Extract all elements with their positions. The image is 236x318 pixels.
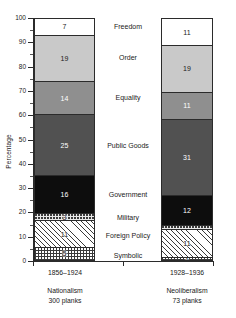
- bar-segment-freedom: 7: [35, 19, 94, 36]
- x-axis-tick: [123, 261, 124, 266]
- segment-value-label: 11: [183, 102, 190, 109]
- y-axis-minor-tick: [30, 176, 33, 177]
- y-axis-minor-tick: [30, 249, 33, 250]
- y-axis-tick: 30: [28, 188, 33, 189]
- stacked-bar-chart: Percentage 1009080706050403020100 719142…: [0, 0, 236, 318]
- bar-segment-equality: 14: [35, 82, 94, 116]
- y-axis-tick-label: 20: [19, 208, 26, 215]
- category-label-symbolic: Symbolic: [97, 252, 159, 259]
- bar-segment-symbolic: 1: [162, 258, 212, 260]
- y-axis-tick: 20: [28, 212, 33, 213]
- category-label-military: Military: [97, 214, 159, 221]
- bar-segment-freedom: 11: [162, 19, 212, 46]
- y-axis-tick-label: 60: [19, 111, 26, 118]
- y-axis-minor-tick: [30, 200, 33, 201]
- bar-segment-foreign-policy: 11: [35, 221, 94, 248]
- category-label-public-goods: Public Goods: [97, 142, 159, 149]
- y-axis-tick: 80: [28, 67, 33, 68]
- y-axis-title: Percentage: [5, 120, 12, 184]
- bar-segment-equality: 11: [162, 93, 212, 120]
- bar-neoliberalism: 1119113112111: [161, 18, 213, 261]
- caption-period: 1856–1924: [24, 268, 106, 278]
- bar-segment-order: 19: [162, 46, 212, 93]
- segment-value-label: 14: [61, 95, 69, 102]
- category-label-equality: Equality: [97, 94, 159, 101]
- y-axis-tick-label: 0: [22, 257, 26, 264]
- category-label-government: Government: [97, 191, 159, 198]
- y-axis-tick: 90: [28, 42, 33, 43]
- y-axis-minor-tick: [30, 225, 33, 226]
- category-label-foreign-policy: Foreign Policy: [97, 232, 159, 239]
- caption-name: Nationalism: [24, 286, 106, 296]
- caption-name: Neoliberalism: [152, 286, 222, 296]
- bar-segment-public-goods: 25: [35, 115, 94, 175]
- y-axis-minor-tick: [30, 127, 33, 128]
- y-axis-minor-tick: [30, 103, 33, 104]
- bar-segment-symbolic: 5: [35, 248, 94, 260]
- y-axis-tick-label: 90: [19, 38, 26, 45]
- caption-nationalism: 1856–1924 Nationalism 300 planks: [24, 268, 106, 306]
- y-axis-tick: 40: [28, 164, 33, 165]
- caption-neoliberalism: 1928–1936 Neoliberalism 73 planks: [152, 268, 222, 306]
- y-axis-minor-tick: [30, 79, 33, 80]
- y-axis-minor-tick: [30, 54, 33, 55]
- y-axis-tick: 50: [28, 140, 33, 141]
- bar-segment-public-goods: 31: [162, 120, 212, 196]
- category-label-freedom: Freedom: [97, 23, 159, 30]
- segment-value-label: 1: [185, 258, 189, 260]
- bar-segment-military: 3: [35, 214, 94, 221]
- caption-count: 73 planks: [152, 296, 222, 306]
- segment-value-label: 31: [183, 154, 191, 161]
- segment-value-label: 25: [61, 142, 69, 149]
- y-axis-tick-label: 100: [15, 14, 26, 21]
- y-axis-minor-tick: [30, 152, 33, 153]
- caption-period: 1928–1936: [152, 268, 222, 278]
- y-axis-minor-tick: [30, 30, 33, 31]
- segment-value-label: 7: [63, 23, 67, 30]
- y-axis-tick-label: 70: [19, 87, 26, 94]
- segment-value-label: 19: [183, 65, 191, 72]
- y-axis-tick-label: 30: [19, 184, 26, 191]
- y-axis-tick: 10: [28, 237, 33, 238]
- bar-segment-government: 16: [35, 176, 94, 215]
- y-axis-tick: 100: [28, 18, 33, 19]
- segment-value-label: 3: [63, 214, 67, 221]
- segment-value-label: 11: [183, 29, 190, 36]
- segment-value-label: 19: [61, 55, 69, 62]
- y-axis-tick: 70: [28, 91, 33, 92]
- y-axis-tick-label: 50: [19, 136, 26, 143]
- caption-count: 300 planks: [24, 296, 106, 306]
- bar-nationalism: 7191425163115: [34, 18, 95, 261]
- x-axis-tick: [213, 261, 214, 266]
- bar-segment-order: 19: [35, 36, 94, 82]
- segment-value-label: 12: [183, 207, 191, 214]
- category-label-order: Order: [97, 54, 159, 61]
- y-axis-tick-label: 80: [19, 63, 26, 70]
- x-axis-tick: [33, 261, 34, 266]
- y-axis-tick-label: 40: [19, 160, 26, 167]
- y-axis-tick-label: 10: [19, 233, 26, 240]
- bar-segment-government: 12: [162, 196, 212, 226]
- segment-value-label: 5: [63, 250, 67, 257]
- y-axis-tick: 60: [28, 115, 33, 116]
- segment-value-label: 11: [61, 231, 68, 238]
- bar-segment-foreign-policy: 11: [162, 230, 212, 257]
- segment-value-label: 11: [183, 240, 190, 247]
- segment-value-label: 16: [61, 191, 69, 198]
